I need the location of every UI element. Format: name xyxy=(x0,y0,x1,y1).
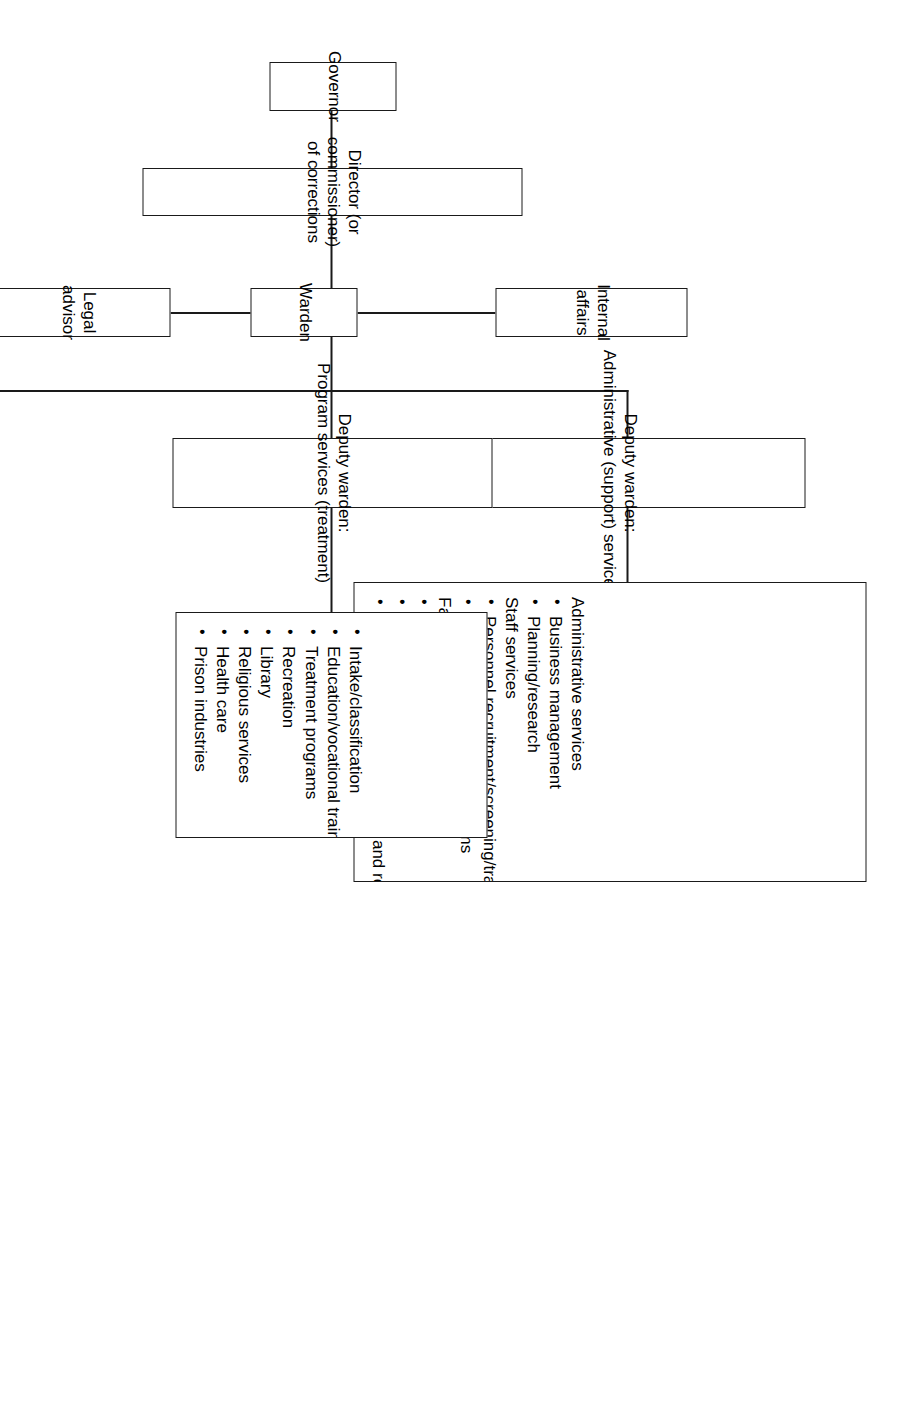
deputy-program-line-2: Program services (treatment) xyxy=(311,363,332,583)
list-item: Intake/classification xyxy=(343,627,365,838)
list-item: Business management xyxy=(543,597,565,882)
list-item: Recreation xyxy=(276,627,298,838)
node-warden-label: Warden xyxy=(293,283,314,342)
node-deputy-warden-program-services[interactable]: Deputy warden: Program services (treatme… xyxy=(172,438,492,508)
node-legal-advisor-label: Legal advisor xyxy=(56,285,97,340)
org-chart-page: Governor Director (or commissioner) of c… xyxy=(0,0,921,1428)
connector-warden-internal-affairs xyxy=(357,312,495,314)
node-director[interactable]: Director (or commissioner) of correction… xyxy=(142,168,522,216)
node-internal-affairs[interactable]: Internal affairs xyxy=(495,288,687,337)
node-director-label: Director (or commissioner) of correction… xyxy=(301,137,363,248)
node-deputy-warden-administrative-label: Deputy warden: Administrative (support) … xyxy=(598,350,639,597)
node-legal-advisor[interactable]: Legal advisor xyxy=(0,288,170,337)
list-item: Health care xyxy=(210,627,232,838)
list-item: Religious services xyxy=(232,627,254,838)
detail-box-program-services-content: Intake/classification Education/vocation… xyxy=(188,627,365,838)
node-deputy-warden-program-services-label: Deputy warden: Program services (treatme… xyxy=(311,363,352,583)
node-governor-label: Governor xyxy=(322,51,343,122)
node-governor[interactable]: Governor xyxy=(269,62,396,111)
org-chart-canvas: Governor Director (or commissioner) of c… xyxy=(0,0,921,1428)
list-item: Library xyxy=(254,627,276,838)
group-heading: Administrative services xyxy=(565,597,587,882)
deputy-admin-line-2: Administrative (support) services xyxy=(598,350,619,597)
list-item: Prison industries xyxy=(188,627,210,838)
list-item: Treatment programs xyxy=(298,627,320,838)
group-heading: Staff services xyxy=(499,597,521,882)
list-item: Education/vocational training xyxy=(321,627,343,838)
list-item: Planning/research xyxy=(521,597,543,882)
node-warden[interactable]: Warden xyxy=(250,288,357,337)
deputy-program-line-1: Deputy warden: xyxy=(332,363,353,583)
deputy-admin-line-1: Deputy warden: xyxy=(619,350,640,597)
node-internal-affairs-label: Internal affairs xyxy=(570,284,611,341)
detail-box-program-services[interactable]: Intake/classification Education/vocation… xyxy=(175,612,487,838)
